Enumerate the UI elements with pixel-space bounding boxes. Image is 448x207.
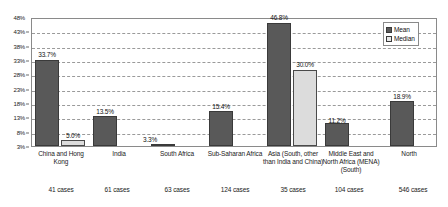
bar-group-south-africa: 3.3% [148,19,206,146]
legend-swatch-mean-icon [386,27,392,33]
y-tick-mark [26,132,29,133]
y-tick-label: 38% [14,43,25,50]
legend-swatch-median-icon [386,36,392,42]
category-label-asia: Asia (South, other than India and China) [262,150,324,166]
case-count-sub-saharan: 124 cases [206,186,264,194]
bar-label-south-africa-mean: 3.3% [143,136,157,144]
y-tick-mark [26,75,29,76]
y-tick-label: 8% [17,129,25,136]
case-count-north: 546 cases [384,186,442,194]
y-tick-label: 23% [14,86,25,93]
y-tick-mark [26,118,29,119]
category-label-mena: Middle East and North Africa (MENA) (Sou… [322,150,380,173]
bars-layer: 33.7% 5.0% 13.5% 3.3% 15.4% 46.8% 30.0% [32,19,436,146]
bar-label-india-mean: 13.5% [96,108,113,116]
bar-group-china: 33.7% 5.0% [32,19,90,146]
x-axis-categories: China and Hong Kong India South Africa S… [32,150,436,186]
category-label-india: India [90,150,148,158]
bar-label-china-mean: 33.7% [38,51,55,59]
y-tick-mark [26,32,29,33]
y-tick-mark [26,89,29,90]
y-tick-label: 13% [14,115,25,122]
bar-north-mean[interactable] [390,101,414,146]
bar-label-north-mean: 18.9% [393,93,410,101]
bar-group-mena: 11.2% [322,19,380,146]
legend-item-mean[interactable]: Mean [386,25,415,34]
y-tick-label: 18% [14,101,25,108]
bar-sub-saharan-mean[interactable] [209,111,233,146]
bar-group-sub-saharan: 15.4% [206,19,264,146]
legend-item-median[interactable]: Median [386,34,415,43]
case-count-india: 61 cases [88,186,146,194]
legend-label-median: Median [394,35,415,43]
y-tick-label: 48% [14,15,25,22]
bar-india-mean[interactable] [93,116,117,146]
y-tick-mark [26,46,29,47]
category-label-china: China and Hong Kong [30,150,92,166]
bar-label-asia-median: 30.0% [296,61,313,69]
bar-label-sub-saharan-mean: 15.4% [212,103,229,111]
y-tick-mark [26,61,29,62]
case-count-mena: 104 cases [320,186,378,194]
y-tick-label: 3% [17,144,25,151]
case-count-china: 41 cases [30,186,92,194]
category-label-south-africa: South Africa [146,150,208,158]
bar-chart: 48% 43% 38% 33% 28% 23% 18% 13% 8% 3% [0,0,448,207]
legend-label-mean: Mean [394,26,410,34]
bar-label-mena-mean: 11.2% [329,117,346,125]
case-count-south-africa: 63 cases [146,186,208,194]
y-tick-mark [26,104,29,105]
bar-label-asia-mean: 46.8% [270,14,287,22]
bar-asia-median[interactable] [293,70,317,146]
y-tick-label: 33% [14,58,25,65]
y-tick-mark [26,147,29,148]
legend: Mean Median [383,22,419,46]
bar-group-asia: 46.8% 30.0% [264,19,322,146]
category-label-north: North [380,150,438,158]
bar-label-china-median: 5.0% [66,132,80,140]
case-counts: 41 cases 61 cases 63 cases 124 cases 35 … [32,186,436,200]
bar-mena-mean[interactable] [325,123,349,146]
bar-china-mean[interactable] [35,60,59,147]
y-tick-label: 28% [14,72,25,79]
y-tick-label: 43% [14,29,25,36]
bar-south-africa-mean[interactable] [151,144,175,146]
bar-group-india: 13.5% [90,19,148,146]
y-axis: 48% 43% 38% 33% 28% 23% 18% 13% 8% 3% [0,18,29,147]
category-label-sub-saharan: Sub-Saharan Africa [206,150,264,158]
bar-china-median[interactable] [61,140,85,146]
case-count-asia: 35 cases [264,186,322,194]
bar-asia-mean[interactable] [267,23,291,147]
